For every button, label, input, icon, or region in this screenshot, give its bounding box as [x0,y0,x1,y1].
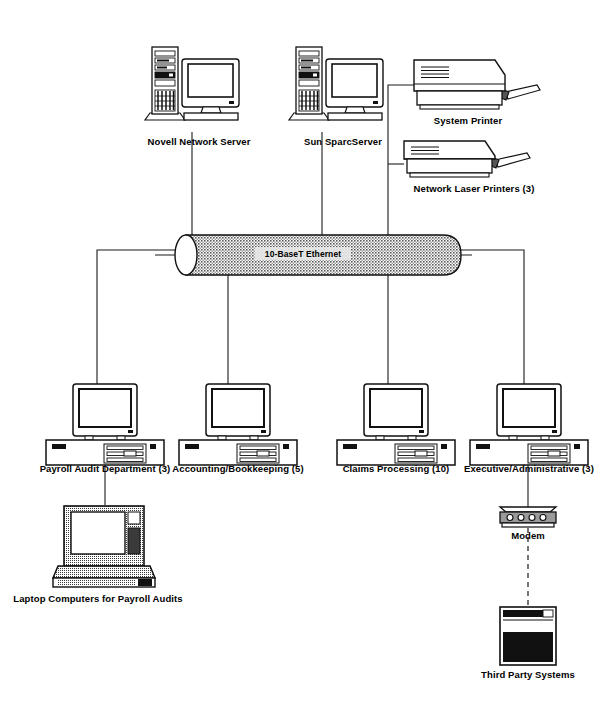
node-label-claims-processing: Claims Processing (10) [343,463,450,474]
network-diagram: 10-BaseT Ethernet [0,0,614,718]
tower-bay-button [313,74,317,77]
monitor-indicator [229,101,234,104]
case-power-led [150,444,156,449]
case-drive-slot [531,458,567,462]
node-label-payroll-audit-department: Payroll Audit Department (3) [40,463,171,474]
monitor-stand [201,107,221,113]
printer-cassette [407,159,492,173]
case-power-led [574,444,580,449]
monitor-screen [212,389,264,427]
node-label-novell-network-server: Novell Network Server [148,136,251,147]
node-label-system-printer: System Printer [434,115,503,126]
third-party-header-bar [503,610,543,617]
printer-foot [420,105,499,109]
node-label-sun-sparcserver: Sun SparcServer [304,136,382,147]
printer-foot [410,173,489,177]
monitor-screen [188,64,233,97]
case-badge [343,444,357,449]
tower-bay-slot [301,67,311,69]
printer-cassette [417,91,502,105]
case-drive-slot [240,458,276,462]
node-label-modem: Modem [511,530,545,541]
laptop-front-vent [138,579,152,586]
case-drive-slot [107,458,143,462]
tower-bay [299,51,319,56]
monitor-indicator [373,101,378,104]
monitor-screen [79,389,131,427]
laptop-front-strip [57,580,135,585]
tower-bay-slot [301,60,313,62]
monitor-base [184,113,238,120]
monitor-screen [332,64,377,97]
modem-led [518,515,524,521]
monitor-indicator [128,430,133,433]
tower-bay-slot [157,67,167,69]
third-party-screen-block [503,632,553,662]
laptop-lid-button [128,512,140,524]
modem-top [500,507,556,512]
monitor-stand [345,107,365,113]
third-party-header-button [543,610,553,617]
case-drive-slot [398,446,434,450]
monitor-indicator [261,430,266,433]
node-label-laptop-computers-payroll-audits: Laptop Computers for Payroll Audits [13,593,182,604]
case-drive-slot [531,446,567,450]
modem-base [502,523,554,527]
case-drive-slot [398,458,434,462]
laptop-lid-panel [128,528,140,554]
ethernet-backbone: 10-BaseT Ethernet [155,235,472,275]
monitor-base [328,113,382,120]
tower-bay [155,51,175,56]
tower-bay [299,80,319,86]
modem-led [507,515,513,521]
backbone-cylinder-end [175,235,197,275]
case-drive-button [548,451,560,456]
diagram-canvas: 10-BaseT Ethernet [0,0,614,718]
laptop-keyboard-deck [53,566,155,578]
case-power-led [441,444,447,449]
tower-bay-button [169,74,173,77]
case-drive-button [257,451,269,456]
case-drive-slot [107,446,143,450]
monitor-indicator [419,430,424,433]
case-drive-button [415,451,427,456]
printer-upper-body [414,60,505,91]
monitor-indicator [552,430,557,433]
case-drive-slot [240,446,276,450]
node-label-network-laser-printers: Network Laser Printers (3) [414,183,535,194]
monitor-screen [370,389,422,427]
node-label-third-party-systems: Third Party Systems [481,669,575,680]
modem-led [540,515,546,521]
tower-bay-slot [157,60,169,62]
monitor-screen [503,389,555,427]
node-label-accounting-bookkeeping: Accounting/Bookkeeping (5) [172,463,303,474]
case-badge [476,444,490,449]
tower-bay [155,80,175,86]
case-power-led [283,444,289,449]
case-badge [52,444,66,449]
backbone-label: 10-BaseT Ethernet [265,249,341,259]
case-drive-button [124,451,136,456]
modem-led [529,515,535,521]
node-label-executive-administrative: Executive/Administrative (3) [464,463,594,474]
laptop-screen [71,512,125,554]
case-badge [185,444,199,449]
